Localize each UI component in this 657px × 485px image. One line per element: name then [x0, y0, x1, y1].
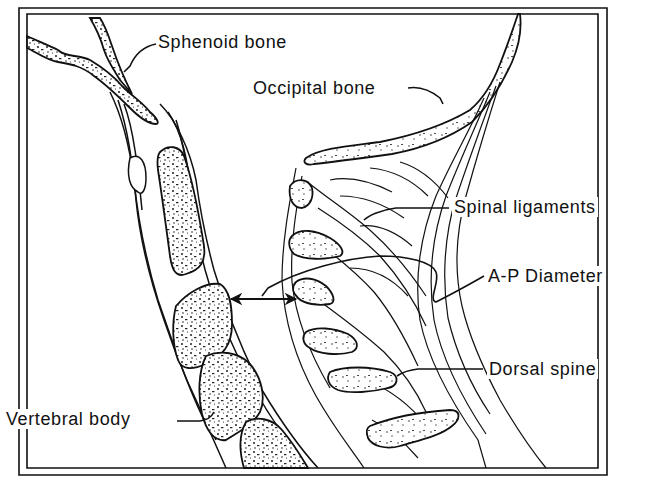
sphenoid-bone	[27, 18, 158, 124]
label-occipital-bone: Occipital bone	[251, 78, 377, 98]
label-dorsal-spine: Dorsal spine	[487, 359, 598, 379]
soft-tissue-nodule	[128, 156, 146, 193]
label-spinal-ligaments: Spinal ligaments	[452, 197, 598, 217]
label-ap-diameter: A-P Diameter	[486, 266, 605, 286]
label-sphenoid-bone: Sphenoid bone	[156, 32, 289, 52]
label-vertebral-body: Vertebral body	[4, 409, 132, 429]
